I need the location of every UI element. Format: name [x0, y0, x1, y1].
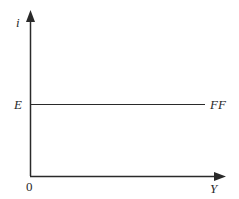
x-axis-arrowhead-icon [214, 172, 226, 181]
y-axis-arrowhead-icon [26, 10, 35, 22]
ff-curve-label: FF [210, 98, 226, 111]
y-axis-label: i [16, 16, 20, 29]
diagram-canvas [0, 0, 239, 199]
level-label-e: E [14, 98, 22, 111]
origin-label: 0 [26, 180, 33, 193]
x-axis-label: Y [210, 182, 217, 195]
